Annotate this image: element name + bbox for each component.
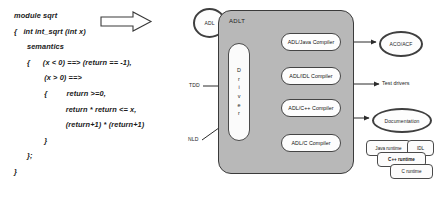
- adlt-title: ADLT: [229, 18, 245, 24]
- driver-component: D r i v e r: [228, 43, 250, 141]
- source-code-listing: module sqrt { int int_sqrt (int x) seman…: [14, 8, 184, 180]
- driver-letter: i: [238, 83, 239, 92]
- node-c-runtime: C runtime: [390, 164, 433, 179]
- node-documentation: Documentation: [372, 108, 432, 133]
- node-adl-cpp-compiler: ADL/C++ Compiler: [281, 99, 341, 117]
- node-adl-java-compiler: ADL/Java Compiler: [281, 33, 341, 51]
- code-line: { return >=0,: [14, 86, 184, 102]
- node-adl-c-compiler: ADL/C Compiler: [281, 134, 341, 152]
- driver-letter: v: [238, 92, 241, 101]
- code-line: }: [14, 133, 184, 149]
- code-line: return * return <= x,: [14, 102, 184, 118]
- code-line: module sqrt: [14, 8, 184, 24]
- code-line: semantics: [14, 39, 184, 55]
- label-nld: NLD: [188, 137, 199, 142]
- driver-letter: r: [238, 75, 240, 84]
- code-line: { (x < 0) ==> (return == -1),: [14, 55, 184, 71]
- code-line: };: [14, 148, 184, 164]
- diagram-canvas: module sqrt { int int_sqrt (int x) seman…: [0, 0, 445, 201]
- label-tdd: TDD: [189, 83, 200, 88]
- code-line: { int int_sqrt (int x): [14, 24, 184, 40]
- driver-letter: D: [237, 66, 241, 75]
- driver-letter: e: [238, 101, 241, 110]
- driver-letter: r: [238, 109, 240, 118]
- code-line: }: [14, 164, 184, 180]
- node-adl-idl-compiler: ADL/IDL Compiler: [281, 67, 341, 85]
- code-line: (x > 0) ==>: [14, 70, 184, 86]
- label-test-drivers: Test drivers: [382, 81, 410, 86]
- code-line: (return+1) * (return+1): [14, 117, 184, 133]
- node-aco-acf: ACO/ACF: [379, 31, 423, 57]
